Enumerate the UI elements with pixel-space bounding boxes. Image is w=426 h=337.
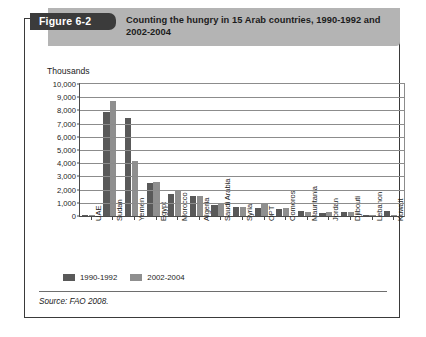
y-axis-tick-label: 8,000 <box>57 106 76 115</box>
gridline <box>80 190 404 191</box>
y-axis-tick-mark <box>77 84 81 85</box>
figure-title: Counting the hungry in 15 Arab countries… <box>126 14 394 39</box>
plot-area: UAESudanYemenEgyptMoroccoAlgeriaSaudi Ar… <box>79 83 405 217</box>
y-axis-tick-label: 0 <box>72 212 76 221</box>
y-axis-tick-mark <box>77 150 81 151</box>
x-axis-tick-mark <box>91 216 92 220</box>
figure-number-tab: Figure 6-2 <box>30 13 116 30</box>
legend-swatch <box>63 274 75 281</box>
bar <box>341 212 347 216</box>
gridline <box>80 203 404 204</box>
bar <box>363 215 369 216</box>
x-axis-tick-mark <box>393 216 394 220</box>
gridline <box>80 97 404 98</box>
bar <box>125 118 131 216</box>
bar <box>384 211 390 216</box>
x-axis-tick-mark <box>220 216 221 220</box>
legend-label: 2002-2004 <box>147 273 184 282</box>
y-axis-tick-label: 1,000 <box>57 198 76 207</box>
x-axis-tick-mark <box>328 216 329 220</box>
x-axis-tick-mark <box>134 216 135 220</box>
y-axis-tick-label: 6,000 <box>57 132 76 141</box>
bar <box>276 209 282 216</box>
y-axis-tick-label: 10,000 <box>53 80 76 89</box>
y-axis-tick-mark <box>77 202 81 203</box>
source-divider <box>39 291 387 292</box>
gridline <box>80 163 404 164</box>
y-axis-tick-label: 4,000 <box>57 159 76 168</box>
figure-container: Thousands UAESudanYemenEgyptMoroccoAlger… <box>24 18 400 318</box>
y-axis-tick-label: 2,000 <box>57 185 76 194</box>
source-note: Source: FAO 2008. <box>39 297 108 306</box>
x-axis-tick-mark <box>285 216 286 220</box>
legend-swatch <box>130 274 142 281</box>
legend-label: 1990-1992 <box>80 273 117 282</box>
y-axis-tick-mark <box>77 216 81 217</box>
y-axis-tick-mark <box>77 136 81 137</box>
x-axis-tick-mark <box>372 216 373 220</box>
y-axis-tick-label: 3,000 <box>57 172 76 181</box>
y-axis-tick-mark <box>77 163 81 164</box>
gridline <box>80 124 404 125</box>
bar <box>168 194 174 216</box>
x-axis-tick-mark <box>199 216 200 220</box>
y-axis-tick-mark <box>77 123 81 124</box>
bar <box>147 183 153 216</box>
gridline <box>80 176 404 177</box>
bar <box>190 196 196 216</box>
y-axis-tick-mark <box>77 189 81 190</box>
x-axis-tick-mark <box>307 216 308 220</box>
legend-item: 1990-1992 <box>63 273 117 282</box>
bar <box>298 211 304 216</box>
bar <box>211 205 217 216</box>
x-axis-tick-mark <box>177 216 178 220</box>
bar <box>319 213 325 216</box>
gridline <box>80 110 404 111</box>
gridline <box>80 137 404 138</box>
y-axis-tick-mark <box>77 110 81 111</box>
y-axis-tick-mark <box>77 97 81 98</box>
x-axis-tick-mark <box>156 216 157 220</box>
x-axis-tick-mark <box>350 216 351 220</box>
y-axis-title: Thousands <box>47 66 90 76</box>
legend-item: 2002-2004 <box>130 273 184 282</box>
figure-number-label: Figure 6-2 <box>39 15 91 27</box>
gridline <box>80 150 404 151</box>
y-axis-tick-label: 9,000 <box>57 93 76 102</box>
bar <box>82 215 88 216</box>
chart-legend: 1990-19922002-2004 <box>63 273 185 282</box>
y-axis-tick-label: 7,000 <box>57 119 76 128</box>
x-axis-tick-mark <box>112 216 113 220</box>
y-axis-tick-mark <box>77 176 81 177</box>
x-axis-tick-mark <box>264 216 265 220</box>
bar <box>233 207 239 216</box>
y-axis-tick-label: 5,000 <box>57 146 76 155</box>
figure-root: Thousands UAESudanYemenEgyptMoroccoAlger… <box>0 0 426 337</box>
x-axis-tick-mark <box>242 216 243 220</box>
bar <box>255 208 261 216</box>
